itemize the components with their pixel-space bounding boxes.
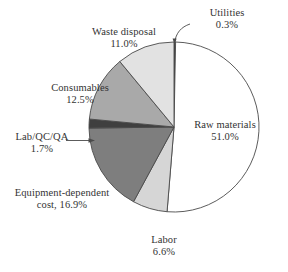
slice-label-equipment-dependent-cost-value: cost, 16.9% — [4, 199, 120, 211]
slice-label-waste-disposal: Waste disposal 11.0% — [76, 26, 172, 50]
pie-chart: Utilities 0.3% Raw materials 51.0% Labor… — [0, 0, 288, 272]
slice-label-consumables: Consumables 12.5% — [34, 82, 126, 106]
slice-label-equipment-dependent-cost-name: Equipment-dependent — [4, 187, 120, 199]
slice-label-waste-disposal-name: Waste disposal — [76, 26, 172, 38]
slice-label-utilities-value: 0.3% — [189, 19, 265, 31]
slice-label-utilities: Utilities 0.3% — [189, 7, 265, 31]
slice-label-raw-materials-name: Raw materials — [182, 119, 268, 131]
slice-label-lab-qc-qa: Lab/QC/QA 1.7% — [4, 131, 80, 155]
slice-label-consumables-name: Consumables — [34, 82, 126, 94]
slice-label-raw-materials-value: 51.0% — [182, 131, 268, 143]
slice-label-utilities-name: Utilities — [189, 7, 265, 19]
slice-label-lab-qc-qa-name: Lab/QC/QA — [4, 131, 80, 143]
slice-label-labor-name: Labor — [134, 234, 194, 246]
slice-label-labor-value: 6.6% — [134, 246, 194, 258]
slice-label-consumables-value: 12.5% — [34, 94, 126, 106]
slice-label-lab-qc-qa-value: 1.7% — [4, 143, 80, 155]
slice-label-equipment-dependent-cost: Equipment-dependent cost, 16.9% — [4, 187, 120, 211]
utilities-leader-line — [175, 24, 190, 43]
slice-label-waste-disposal-value: 11.0% — [76, 38, 172, 50]
slice-label-raw-materials: Raw materials 51.0% — [182, 119, 268, 143]
slice-label-labor: Labor 6.6% — [134, 234, 194, 258]
